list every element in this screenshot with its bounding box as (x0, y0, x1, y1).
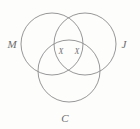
set-label-m: M (6, 38, 17, 50)
region-mark-left: X (58, 47, 65, 56)
venn-diagram-canvas: M J C X X (0, 0, 140, 129)
set-label-c: C (61, 112, 69, 124)
set-label-j: J (122, 38, 128, 50)
region-mark-right: X (74, 47, 81, 56)
set-circle-m (21, 13, 83, 75)
venn-diagram: M J C X X (0, 0, 140, 129)
